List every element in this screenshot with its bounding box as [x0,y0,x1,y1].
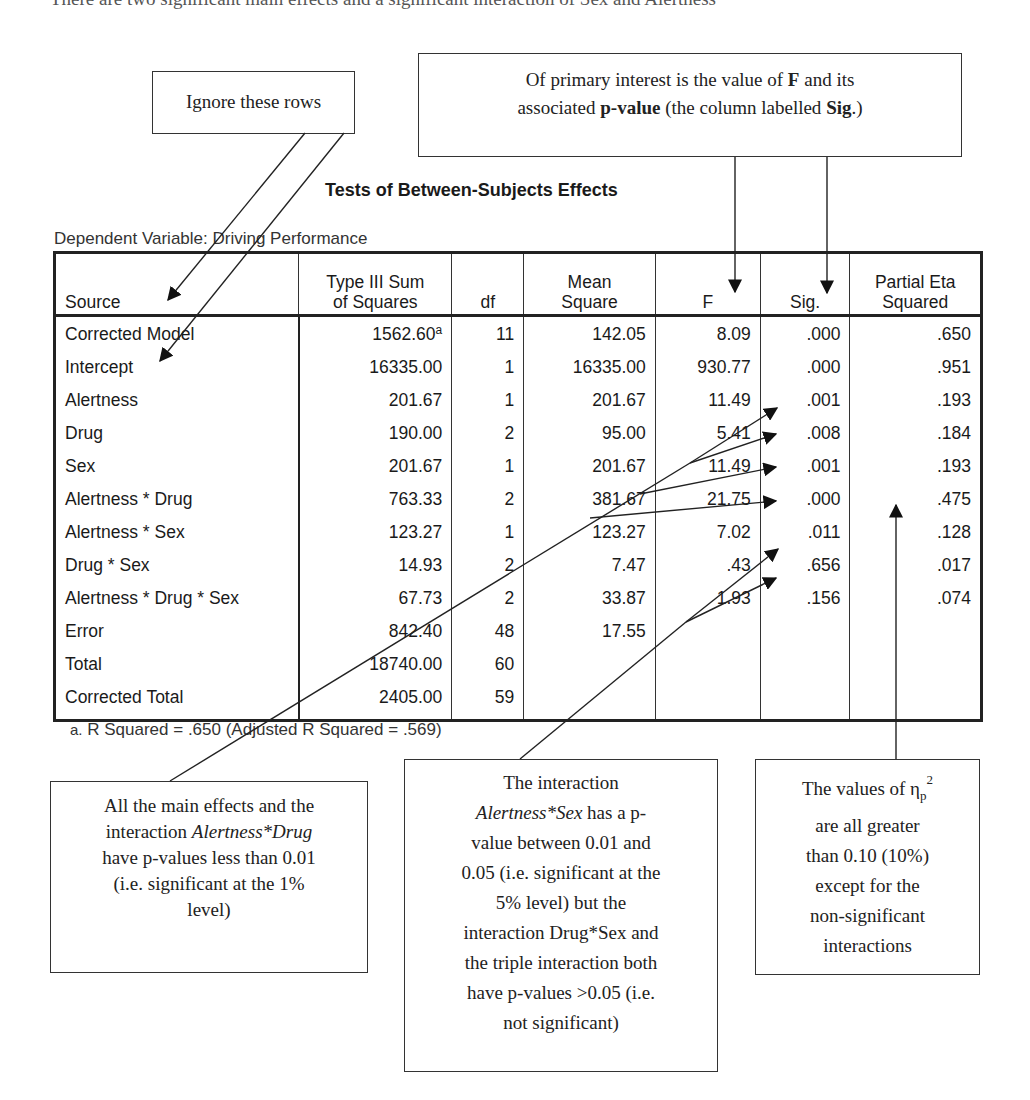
cell-df: 48 [452,614,524,647]
cell-value: .193 [937,390,971,410]
cell-sig [760,680,850,721]
text: Mean [533,272,646,292]
cell-value: .008 [806,423,840,443]
cell-value: .074 [937,588,971,608]
text: Squared [859,292,971,312]
cell-ss: 842.40 [299,614,452,647]
text: All the main effects and the [51,793,367,819]
cell-ms: 201.67 [524,383,656,416]
text: level) [51,897,367,923]
cell-ss: 18740.00 [299,647,452,680]
cell-f [655,647,760,680]
header-source: Source [55,253,299,316]
table-row: Alertness201.671201.6711.49.001.193 [55,383,982,416]
cell-value: .000 [806,357,840,377]
cell-sig [760,614,850,647]
cell-value: .193 [937,456,971,476]
callout-ignore-rows: Ignore these rows [152,71,355,134]
table-title: Tests of Between-Subjects Effects [325,180,618,201]
cell-ms: 142.05 [524,316,656,351]
table-row: Alertness * Sex123.271123.277.02.011.128 [55,515,982,548]
cell-value: .017 [937,555,971,575]
cell-value: Corrected Model [65,324,194,344]
table-row: Total18740.0060 [55,647,982,680]
cell-ms: 7.47 [524,548,656,581]
cell-value: 201.67 [592,390,646,410]
cell-value: 59 [495,687,514,707]
cell-value: 201.67 [389,456,443,476]
cell-value: Sex [65,456,95,476]
cell-source: Drug [55,416,299,449]
cell-df: 2 [452,581,524,614]
cell-eta: .074 [850,581,982,614]
text: of Squares [308,292,442,312]
cell-value: .43 [726,555,750,575]
cell-value: 67.73 [398,588,442,608]
cell-value: .000 [806,489,840,509]
cell-value: .156 [806,588,840,608]
text: than 0.10 (10%) [756,841,979,871]
cell-sig: .008 [760,416,850,449]
cell-value: .000 [806,324,840,344]
cell-ss: 1562.60a [299,316,452,351]
cell-ss: 763.33 [299,482,452,515]
cell-value: 1562.60 [372,324,435,344]
cell-eta [850,680,982,721]
text: interaction [106,821,192,842]
cell-value: Total [65,654,102,674]
cell-source: Corrected Total [55,680,299,721]
text: Square [533,292,646,312]
cell-ss: 201.67 [299,449,452,482]
cell-df: 60 [452,647,524,680]
cell-eta: .475 [850,482,982,515]
callout-main-effects: All the main effects and the interaction… [50,781,368,973]
cell-eta: .193 [850,383,982,416]
text: Of primary interest is the value of [526,69,788,90]
cell-df: 59 [452,680,524,721]
text: has a p- [582,802,646,823]
cell-value: .001 [806,390,840,410]
cell-value: 11 [496,324,514,344]
cell-value: 1 [504,390,514,410]
cell-value: 16335.00 [573,357,646,377]
cell-f: 5.41 [655,416,760,449]
header-f: F [655,253,760,316]
cell-value: 17.55 [602,621,646,641]
cell-value: 201.67 [592,456,646,476]
cell-ms: 381.67 [524,482,656,515]
table-row: Intercept16335.00116335.00930.77.000.951 [55,350,982,383]
table-row: Drug190.00295.005.41.008.184 [55,416,982,449]
text: interactions [756,931,979,961]
cell-df: 1 [452,515,524,548]
header-df: df [452,253,524,316]
text: except for the [756,871,979,901]
cell-value: 142.05 [592,324,646,344]
text-sup: 2 [927,772,934,787]
cell-sig: .001 [760,449,850,482]
text: Partial Eta [859,272,971,292]
table-row: Corrected Total2405.0059 [55,680,982,721]
callout-ignore-rows-text: Ignore these rows [186,91,321,112]
cell-sig: .156 [760,581,850,614]
cell-value: .951 [937,357,971,377]
cell-ms [524,680,656,721]
text: The interaction [405,768,717,798]
cell-ms: 17.55 [524,614,656,647]
text: Type III Sum [308,272,442,292]
callout-interaction: The interaction Alertness*Sex has a p- v… [404,759,718,1072]
text: and its [799,69,854,90]
table-row: Drug * Sex14.9327.47.43.656.017 [55,548,982,581]
text: (the column labelled [660,97,826,118]
cell-value: 123.27 [592,522,646,542]
cell-sig: .001 [760,383,850,416]
text: are all greater [756,811,979,841]
cell-sig: .000 [760,316,850,351]
table-row: Alertness * Drug * Sex67.73233.871.93.15… [55,581,982,614]
cell-value: .656 [806,555,840,575]
text-italic: Alertness*Sex [476,802,583,823]
header-eta: Partial EtaSquared [850,253,982,316]
cell-value: 190.00 [389,423,443,443]
cell-sig: .656 [760,548,850,581]
cell-eta: .184 [850,416,982,449]
cell-source: Alertness * Sex [55,515,299,548]
